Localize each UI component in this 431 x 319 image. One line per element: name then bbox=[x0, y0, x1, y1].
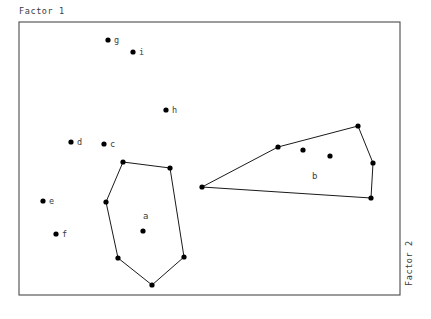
convex-hull-layer bbox=[106, 126, 373, 285]
plot-canvas: abgihdcef bbox=[0, 0, 431, 319]
plot-frame bbox=[19, 22, 400, 295]
hull-vertex-point bbox=[355, 123, 360, 128]
data-point-h bbox=[163, 107, 168, 112]
data-point-label-h: h bbox=[172, 105, 177, 115]
data-point-label-i: i bbox=[139, 47, 144, 57]
data-point-c bbox=[101, 141, 106, 146]
hull-vertex-point bbox=[115, 255, 120, 260]
data-point-f bbox=[53, 231, 58, 236]
convex-hull-a bbox=[106, 162, 184, 285]
interior-data-point bbox=[300, 147, 305, 152]
hull-vertex-point bbox=[370, 160, 375, 165]
data-point-d bbox=[68, 139, 73, 144]
data-point-label-g: g bbox=[114, 35, 119, 45]
convex-hull-b bbox=[202, 126, 373, 198]
point-label-layer: abgihdcef bbox=[49, 35, 317, 239]
cluster-label-b: b bbox=[312, 171, 317, 181]
hull-vertex-point bbox=[103, 199, 108, 204]
hull-vertex-point bbox=[167, 165, 172, 170]
data-point-g bbox=[105, 37, 110, 42]
interior-data-point bbox=[327, 153, 332, 158]
scatter-plot-figure: Factor 1 Factor 2 abgihdcef bbox=[0, 0, 431, 319]
hull-vertex-point bbox=[199, 184, 204, 189]
interior-data-point bbox=[140, 228, 145, 233]
cluster-label-a: a bbox=[143, 211, 148, 221]
data-point-label-e: e bbox=[49, 196, 54, 206]
data-point-label-c: c bbox=[110, 139, 115, 149]
data-point-layer bbox=[40, 37, 375, 287]
hull-vertex-point bbox=[181, 254, 186, 259]
data-point-label-d: d bbox=[77, 137, 82, 147]
hull-vertex-point bbox=[275, 144, 280, 149]
data-point-label-f: f bbox=[62, 229, 67, 239]
hull-vertex-point bbox=[368, 195, 373, 200]
data-point-i bbox=[130, 49, 135, 54]
hull-vertex-point bbox=[149, 282, 154, 287]
data-point-e bbox=[40, 198, 45, 203]
hull-vertex-point bbox=[120, 159, 125, 164]
